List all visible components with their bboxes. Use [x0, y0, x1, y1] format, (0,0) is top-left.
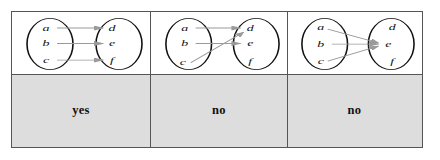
node-f: f: [110, 56, 116, 64]
left-set-ellipse: [166, 18, 212, 69]
panel-3: a b c d e f: [287, 12, 421, 74]
function-diagram-figure: a b c d e f: [11, 11, 423, 148]
node-a: a: [43, 24, 50, 32]
node-a: a: [181, 24, 188, 32]
panel-3-verdict-label: no: [287, 75, 421, 147]
node-f: f: [248, 57, 254, 65]
panels-row: a b c d e f: [12, 12, 422, 74]
node-f: f: [390, 57, 396, 65]
panel-1-verdict-label: yes: [12, 75, 150, 147]
node-c: c: [318, 57, 324, 65]
left-set-ellipse: [27, 18, 73, 69]
right-set-ellipse: [96, 18, 142, 69]
node-b: b: [181, 39, 188, 47]
panel-2-verdict-label: no: [150, 75, 287, 147]
node-d: d: [389, 23, 396, 31]
node-c: c: [43, 56, 49, 64]
node-c: c: [180, 59, 186, 67]
node-e: e: [385, 40, 391, 48]
node-d: d: [109, 24, 116, 32]
node-a: a: [317, 23, 324, 31]
node-e: e: [247, 39, 253, 47]
panel-3-canvas: a b c d e f: [288, 12, 421, 74]
arrow-c-to-d: [191, 32, 244, 62]
node-d: d: [247, 24, 254, 32]
panel-2-canvas: a b c d e f: [151, 12, 287, 74]
panel-1: a b c d e f: [12, 12, 150, 74]
right-set-ellipse: [233, 18, 279, 69]
node-b: b: [43, 40, 50, 48]
node-b: b: [317, 40, 324, 48]
panel-2: a b c d e f: [150, 12, 287, 74]
panel-1-canvas: a b c d e f: [12, 12, 150, 74]
node-e: e: [109, 40, 115, 48]
labels-row: yes no no: [12, 74, 422, 147]
